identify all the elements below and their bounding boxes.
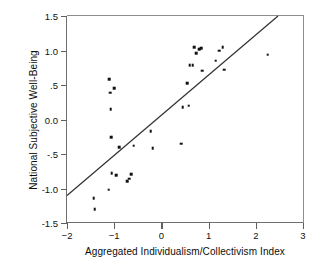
x-tick-mark: [256, 223, 257, 229]
x-tick-mark: [67, 223, 68, 229]
x-tick-label: −1: [109, 230, 120, 241]
data-point: [221, 46, 224, 49]
data-point: [93, 197, 96, 200]
data-point: [186, 82, 189, 85]
data-point: [201, 69, 204, 72]
data-point: [181, 106, 184, 109]
y-tick-label: 1.5: [0, 11, 58, 22]
x-tick-label: −2: [62, 230, 73, 241]
x-tick-label: 1: [206, 230, 211, 241]
data-point: [130, 173, 133, 176]
x-axis-title: Aggregated Individualism/Collectivism In…: [67, 246, 303, 257]
data-point: [108, 78, 111, 81]
data-point: [128, 178, 131, 181]
data-point: [200, 47, 203, 50]
data-point: [109, 91, 112, 94]
data-point: [266, 53, 269, 56]
data-point: [214, 60, 217, 63]
x-tick-label: 0: [159, 230, 164, 241]
data-point: [193, 46, 196, 49]
data-point: [191, 64, 194, 67]
data-point: [187, 104, 190, 107]
data-point: [223, 69, 226, 72]
data-point: [110, 136, 113, 139]
scatter-plot-figure: -1.5-1.0-.50.0.51.01.5 −2−10123 National…: [0, 0, 323, 267]
data-point: [132, 144, 135, 147]
x-tick-label: 2: [253, 230, 258, 241]
data-point: [195, 52, 198, 55]
data-point: [111, 172, 114, 175]
x-tick-label: 3: [300, 230, 305, 241]
data-point: [149, 130, 152, 133]
data-point: [113, 87, 116, 90]
x-tick-mark: [303, 223, 304, 229]
data-point: [110, 108, 113, 111]
data-point: [152, 147, 155, 150]
y-tick-label: -1.5: [0, 218, 58, 229]
y-axis-title: National Subjective Well-Being: [28, 25, 39, 215]
regression-line: [67, 16, 303, 223]
data-point: [115, 174, 118, 177]
y-axis-title-host: National Subjective Well-Being: [14, 16, 28, 223]
plot-area: [67, 16, 303, 223]
data-point: [107, 189, 110, 192]
data-point: [94, 208, 97, 211]
x-tick-mark: [161, 223, 162, 229]
data-point: [180, 142, 183, 145]
data-point: [118, 146, 121, 149]
x-tick-mark: [209, 223, 210, 229]
data-point: [218, 49, 221, 52]
x-tick-mark: [114, 223, 115, 229]
